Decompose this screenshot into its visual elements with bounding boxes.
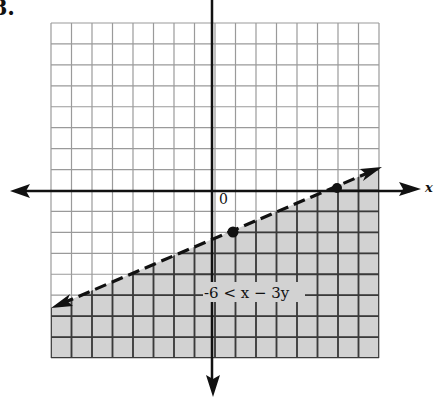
x-axis-label: x: [424, 180, 433, 195]
point-marker: [332, 183, 342, 193]
inequality-label: -6 < x − 3y: [204, 284, 290, 302]
origin-label: 0: [219, 191, 228, 207]
inequality-graph: x 0 -6 < x − 3y: [0, 0, 440, 407]
point-marker: [228, 227, 239, 238]
x-axis-right-arrow-icon: [399, 182, 421, 196]
